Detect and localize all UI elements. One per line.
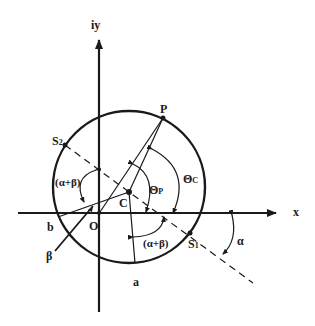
arc-theta-c xyxy=(152,149,179,213)
segment-b-label: b xyxy=(47,220,54,234)
line-c-to-a xyxy=(129,192,135,263)
theta-c-sub: C xyxy=(192,176,198,185)
point-s1-dot xyxy=(188,231,193,236)
point-p-dot xyxy=(161,116,166,121)
arc-alpha xyxy=(223,215,234,254)
line-o-to-p xyxy=(100,118,163,212)
angle-alpha-label: α xyxy=(237,234,244,248)
y-axis-label: iy xyxy=(91,18,100,32)
point-s2-label: S2 xyxy=(52,134,63,148)
x-axis-label: x xyxy=(293,205,299,219)
angle-alpha-beta-upper-label: (α+β) xyxy=(55,176,81,189)
theta-p-sub: P xyxy=(158,187,163,196)
arc-alpha-beta-upper xyxy=(80,170,96,202)
theta-c-main: Θ xyxy=(183,172,192,186)
line-c-to-p xyxy=(129,118,163,192)
point-s2-dot xyxy=(63,143,68,148)
angle-theta-p-label: ΘP xyxy=(149,183,163,197)
arc-alpha-beta-lower xyxy=(133,217,164,237)
point-c-label: C xyxy=(119,196,128,210)
origin-label: O xyxy=(89,219,98,233)
mohr-circle-diagram: iy x P S2 S1 C O b a β (α+β) (α+β) ΘP ΘC… xyxy=(0,0,315,326)
beta-label: β xyxy=(46,249,52,263)
theta-p-main: Θ xyxy=(149,183,158,197)
s2-label-sub: 2 xyxy=(59,138,63,147)
diagram-canvas: iy x P S2 S1 C O b a β (α+β) (α+β) ΘP ΘC… xyxy=(0,0,315,326)
point-s1-label: S1 xyxy=(188,237,199,251)
point-p-label: P xyxy=(160,102,167,116)
point-o-dot xyxy=(97,211,101,215)
angle-alpha-beta-lower-label: (α+β) xyxy=(143,237,169,250)
angle-theta-c-label: ΘC xyxy=(183,172,198,186)
s1-label-sub: 1 xyxy=(195,241,199,250)
point-c-dot xyxy=(126,189,132,195)
segment-a-label: a xyxy=(133,275,139,289)
